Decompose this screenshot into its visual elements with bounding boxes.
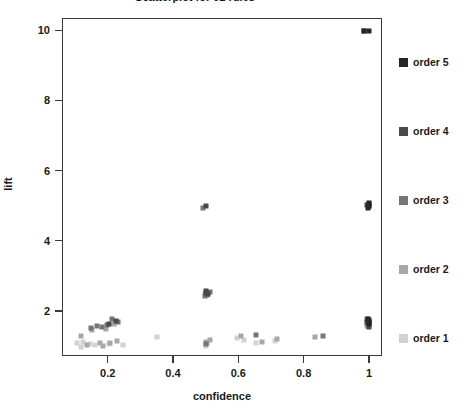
plot-frame	[62, 18, 382, 356]
y-axis-title: lift	[2, 154, 14, 214]
y-axis-tick-label: 8	[8, 94, 50, 106]
legend-swatch-icon	[399, 196, 408, 205]
legend-item-label: order 5	[413, 56, 449, 68]
legend-item[interactable]: order 4	[399, 125, 466, 137]
chart-title: Scatterplot for 92 rules	[0, 0, 390, 3]
legend-item[interactable]: order 2	[399, 263, 466, 275]
y-axis-tick	[55, 100, 62, 101]
legend-item[interactable]: order 1	[399, 332, 466, 344]
x-axis-tick	[238, 356, 239, 363]
legend-item[interactable]: order 5	[399, 56, 466, 68]
legend-item-label: order 4	[413, 125, 449, 137]
y-axis-tick-label: 10	[8, 24, 50, 36]
x-axis-tick	[368, 356, 369, 363]
legend-item[interactable]: order 3	[399, 194, 466, 206]
y-axis-tick-label: 6	[8, 165, 50, 177]
y-axis-tick	[55, 240, 62, 241]
y-axis-tick	[55, 310, 62, 311]
y-axis-tick-label: 2	[8, 305, 50, 317]
x-axis-tick	[172, 356, 173, 363]
x-axis-tick-label: 0.6	[213, 367, 263, 379]
y-axis-tick	[55, 30, 62, 31]
legend-item-label: order 3	[413, 194, 449, 206]
x-axis-tick	[303, 356, 304, 363]
legend-swatch-icon	[399, 58, 408, 67]
legend: order 5order 4order 3order 2order 1	[399, 18, 466, 356]
legend-swatch-icon	[399, 334, 408, 343]
x-axis-tick-label: 0.8	[279, 367, 329, 379]
legend-swatch-icon	[399, 265, 408, 274]
legend-swatch-icon	[399, 127, 408, 136]
legend-item-label: order 1	[413, 332, 449, 344]
x-axis-title: confidence	[62, 390, 382, 402]
y-axis-tick-label: 4	[8, 235, 50, 247]
legend-item-label: order 2	[413, 263, 449, 275]
x-axis-tick-label: 1	[344, 367, 394, 379]
x-axis-tick-label: 0.2	[83, 367, 133, 379]
x-axis-tick-label: 0.4	[148, 367, 198, 379]
x-axis-tick	[107, 356, 108, 363]
scatter-plot-figure: Scatterplot for 92 rules 246810 0.20.40.…	[0, 0, 466, 416]
y-axis-tick	[55, 170, 62, 171]
